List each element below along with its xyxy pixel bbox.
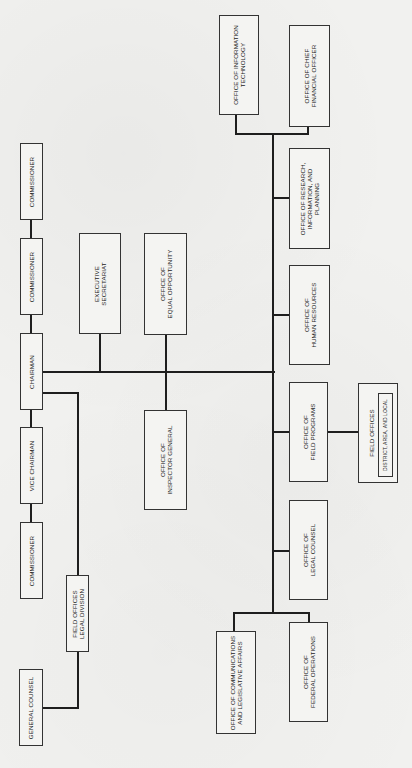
- commissioner-box: COMMISSIONER: [20, 143, 43, 220]
- connector: [30, 315, 32, 333]
- trunk-connector: [272, 133, 274, 613]
- connector: [99, 334, 101, 372]
- connector: [273, 431, 289, 433]
- connector: [30, 410, 32, 427]
- field-offices-legal-division-label: FIELD OFFICES LEGAL DIVISION: [70, 589, 84, 639]
- inspector-general-label: OFFICE OF INSPECTOR GENERAL: [158, 426, 172, 495]
- field-programs-label: OFFICE OF FIELD PROGRAMS: [301, 404, 315, 461]
- executive-secretariat-box: EXECUTIVE SECRETARIAT: [79, 233, 121, 334]
- connector: [307, 127, 309, 134]
- legal-counsel-label: OFFICE OF LEGAL COUNSEL: [301, 524, 315, 577]
- communications-legislative-affairs-box: OFFICE OF COMMUNICATIONS AND LEGISLATIVE…: [216, 631, 256, 734]
- connector: [233, 612, 235, 631]
- connector: [273, 197, 289, 199]
- field-offices-legal-division-box: FIELD OFFICES LEGAL DIVISION: [66, 575, 89, 652]
- commissioner-label: COMMISSIONER: [28, 156, 35, 206]
- connector: [43, 392, 79, 394]
- connector: [43, 707, 79, 709]
- paper-background: [0, 0, 412, 768]
- connector: [30, 504, 32, 522]
- field-offices-subbox: DISTRICT, AREA, AND LOCAL: [378, 393, 393, 477]
- connector: [165, 335, 167, 410]
- general-counsel-label: GENERAL COUNSEL: [27, 676, 34, 738]
- research-information-planning-label: OFFICE OF RESEARCH, INFORMATION, AND PLA…: [299, 162, 321, 235]
- connector: [30, 220, 32, 238]
- commissioner-label: COMMISSIONER: [28, 251, 35, 301]
- human-resources-box: OFFICE OF HUMAN RESOURCES: [289, 265, 330, 365]
- vice-chairman-box: VICE CHAIRMAN: [20, 427, 43, 504]
- connector: [233, 612, 310, 614]
- executive-secretariat-label: EXECUTIVE SECRETARIAT: [93, 262, 107, 306]
- information-technology-label: OFFICE OF INFORMATION TECHNOLOGY: [232, 25, 246, 105]
- equal-opportunity-label: OFFICE OF EQUAL OPPORTUNITY: [158, 250, 172, 319]
- federal-operations-box: OFFICE OF FEDERAL OPERATIONS: [289, 622, 328, 722]
- general-counsel-box: GENERAL COUNSEL: [19, 669, 43, 746]
- connector: [273, 550, 289, 552]
- chairman-box: CHAIRMAN: [20, 333, 43, 410]
- chief-financial-officer-label: OFFICE OF CHIEF FINANCIAL OFFICER: [302, 45, 316, 108]
- field-offices-title: FIELD OFFICES: [368, 409, 375, 456]
- commissioner-label: COMMISSIONER: [28, 535, 35, 585]
- communications-legislative-affairs-label: OFFICE OF COMMUNICATIONS AND LEGISLATIVE…: [229, 635, 243, 729]
- information-technology-box: OFFICE OF INFORMATION TECHNOLOGY: [219, 15, 259, 115]
- commissioner-box: COMMISSIONER: [20, 238, 43, 315]
- research-information-planning-box: OFFICE OF RESEARCH, INFORMATION, AND PLA…: [289, 148, 330, 249]
- legal-counsel-box: OFFICE OF LEGAL COUNSEL: [289, 500, 328, 600]
- main-connector: [43, 371, 275, 373]
- connector: [273, 314, 289, 316]
- chief-financial-officer-box: OFFICE OF CHIEF FINANCIAL OFFICER: [289, 25, 330, 127]
- connector: [235, 133, 309, 135]
- equal-opportunity-box: OFFICE OF EQUAL OPPORTUNITY: [144, 233, 187, 335]
- commissioner-box: COMMISSIONER: [20, 522, 43, 599]
- federal-operations-label: OFFICE OF FEDERAL OPERATIONS: [301, 636, 315, 708]
- vice-chairman-label: VICE CHAIRMAN: [28, 440, 35, 490]
- connector: [308, 612, 310, 622]
- connector: [77, 652, 79, 709]
- connector: [328, 431, 358, 433]
- field-offices-box: FIELD OFFICES DISTRICT, AREA, AND LOCAL: [358, 383, 398, 483]
- chairman-label: CHAIRMAN: [28, 355, 35, 389]
- human-resources-label: OFFICE OF HUMAN RESOURCES: [302, 282, 316, 347]
- connector: [77, 392, 79, 575]
- inspector-general-box: OFFICE OF INSPECTOR GENERAL: [144, 410, 187, 510]
- field-offices-subtitle: DISTRICT, AREA, AND LOCAL: [382, 399, 389, 471]
- connector: [235, 115, 237, 134]
- field-programs-box: OFFICE OF FIELD PROGRAMS: [289, 382, 328, 482]
